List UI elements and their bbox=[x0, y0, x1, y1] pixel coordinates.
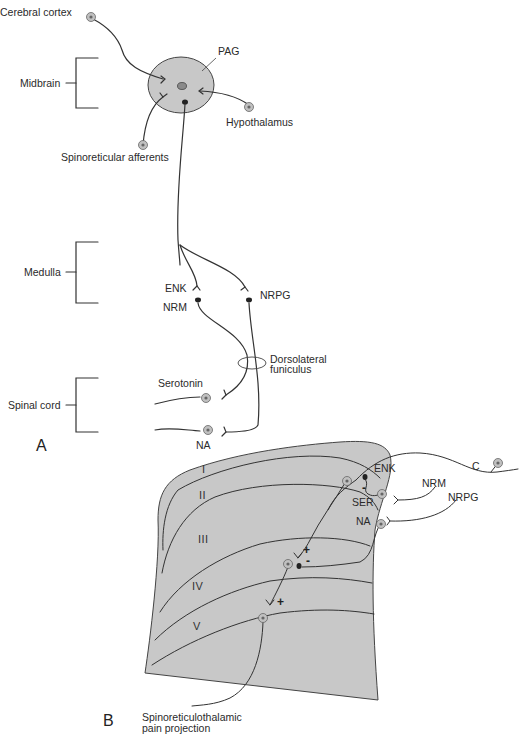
dorsolateral-funiculus-ring bbox=[238, 357, 266, 369]
label-nrm-b: NRM bbox=[422, 478, 446, 489]
medulla-bracket bbox=[66, 242, 98, 303]
lamina-ii: II bbox=[199, 489, 206, 501]
label-enk-b: ENK bbox=[374, 463, 396, 474]
label-nrpg-b: NRPG bbox=[448, 492, 478, 503]
sign-minus-iii: - bbox=[306, 554, 310, 568]
label-na-a: NA bbox=[196, 440, 211, 451]
lamina-i: I bbox=[202, 463, 206, 475]
label-hypothalamus: Hypothalamus bbox=[226, 117, 293, 128]
label-medulla: Medulla bbox=[24, 267, 61, 278]
label-nrpg-a: NRPG bbox=[260, 290, 290, 301]
label-ser: SER bbox=[352, 497, 374, 508]
lamina-v: V bbox=[193, 620, 201, 632]
lamina-iii: III bbox=[198, 533, 209, 545]
panel-letter-a: A bbox=[36, 437, 47, 455]
label-projection-line2: pain projection bbox=[142, 723, 210, 734]
label-pag: PAG bbox=[218, 46, 239, 57]
midbrain-bracket bbox=[66, 58, 98, 108]
pag-central-cell bbox=[178, 83, 187, 90]
label-cerebral-cortex: Cerebral cortex bbox=[0, 7, 72, 18]
label-nrm-a: NRM bbox=[163, 302, 187, 313]
sign-plus-iv: + bbox=[277, 595, 284, 609]
label-spinal-cord: Spinal cord bbox=[8, 400, 61, 411]
label-serotonin: Serotonin bbox=[158, 378, 203, 389]
sign-minus-enk: - bbox=[362, 481, 366, 495]
lamina-iv: IV bbox=[192, 580, 203, 592]
pain-modulation-diagram bbox=[0, 0, 530, 742]
spinal-cord-bracket bbox=[66, 378, 98, 432]
label-na-b: NA bbox=[356, 516, 371, 527]
panel-letter-b: B bbox=[103, 712, 114, 730]
dorsal-horn-region bbox=[145, 441, 391, 700]
label-c-fiber: C bbox=[472, 461, 480, 472]
label-spinoreticular-afferents: Spinoreticular afferents bbox=[61, 152, 169, 163]
label-enk-a: ENK bbox=[165, 283, 187, 294]
label-midbrain: Midbrain bbox=[20, 78, 60, 89]
label-funiculus: funiculus bbox=[270, 364, 311, 375]
